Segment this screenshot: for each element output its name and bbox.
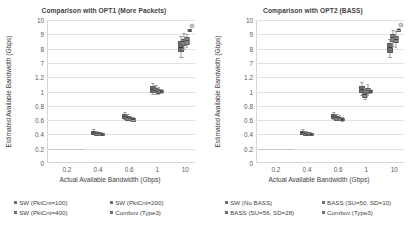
boxplot-whisker-cap	[154, 85, 157, 86]
y-axis-tick-label: 0.4	[244, 131, 253, 138]
legend-item: Combov (Type3)	[110, 209, 204, 216]
gridline	[47, 134, 195, 135]
legend-item: SW (PktCnt=100)	[14, 199, 108, 206]
gridline	[256, 34, 404, 35]
legend-label: BASS (SU=56, SD=28)	[230, 209, 294, 216]
y-axis-label-opt1: Estimated Available Bandwidth (Gbps)	[2, 20, 14, 163]
figure-two-boxplot-charts: Comparison with OPT1 (More Packets) Esti…	[0, 0, 417, 241]
y-axis-label-opt2: Estimated Available Bandwidth (Gbps)	[211, 20, 223, 163]
y-axis-tick-label: 0.6	[35, 117, 44, 124]
boxplot-whisker-cap	[366, 95, 369, 96]
boxplot-median	[388, 47, 392, 48]
y-axis-tick-label: 9	[249, 31, 253, 38]
y-axis-tick-label: 7	[40, 59, 44, 66]
boxplot-whisker-cap	[185, 47, 188, 48]
chart-panel-opt1: Comparison with OPT1 (More Packets) Esti…	[0, 0, 208, 241]
legend-swatch-icon	[225, 201, 228, 204]
gridline	[256, 120, 404, 121]
y-axis-label-text: Estimated Available Bandwidth (Gbps)	[214, 35, 221, 147]
boxplot-outlier	[398, 22, 403, 27]
boxplot-outlier	[189, 23, 194, 28]
boxplot-whisker-cap	[360, 82, 363, 83]
boxplot-whisker-cap	[179, 36, 182, 37]
y-axis-tick-label: 1	[40, 88, 44, 95]
boxplot-median	[101, 134, 104, 135]
boxplot-median	[188, 30, 191, 31]
gridline	[47, 77, 195, 78]
gridline	[47, 63, 195, 64]
x-axis-tick-label: 1	[155, 166, 159, 173]
chart-panel-opt2: Comparison with OPT2 (BASS) Estimated Av…	[209, 0, 417, 241]
plot-area-opt1: 00.20.40.60.811.2789100.20.40.6110	[47, 20, 195, 163]
legend-label: SW (PktCnt=100)	[19, 199, 67, 206]
gridline	[256, 63, 404, 64]
y-axis-tick-label: 0.8	[35, 102, 44, 109]
gridline	[256, 77, 404, 78]
legend-label: BASS (SU=50, SD=10)	[327, 199, 391, 206]
gridline	[256, 92, 404, 93]
y-axis-tick-label: 0.4	[35, 131, 44, 138]
y-axis-tick-label: 1.2	[35, 74, 44, 81]
legend-swatch-icon	[225, 211, 228, 214]
y-axis-tick-label: 0.2	[35, 145, 44, 152]
x-axis-tick-label: 1	[364, 166, 368, 173]
y-axis-tick-label: 0	[40, 160, 44, 167]
x-axis-tick-label: 0.6	[125, 166, 134, 173]
boxplot-whisker-cap	[332, 112, 335, 113]
gridline	[256, 134, 404, 135]
y-axis-tick-label: 8	[40, 45, 44, 52]
gridline	[47, 106, 195, 107]
legend-swatch-icon	[322, 211, 325, 214]
y-axis-tick-label: 0	[249, 160, 253, 167]
legend-opt2: SW (No BASS) BASS (SU=50, SD=10) BASS (S…	[225, 199, 415, 216]
y-axis-tick-label: 1	[249, 88, 253, 95]
x-axis-tick-label: 10	[182, 166, 189, 173]
boxplot-whisker-cap	[394, 47, 397, 48]
legend-item: Combov (Type3)	[322, 209, 415, 216]
gridline	[47, 34, 195, 35]
chart-title-opt1: Comparison with OPT1 (More Packets)	[0, 7, 208, 14]
legend-label: Combov (Type3)	[115, 209, 161, 216]
y-axis-tick-label: 0.2	[244, 145, 253, 152]
y-axis-tick-label: 8	[249, 45, 253, 52]
plot-series-area	[47, 20, 195, 163]
boxplot-whisker-cap	[183, 49, 186, 50]
boxplot-median	[160, 91, 163, 92]
plot-area-opt2: 00.20.40.60.811.2789100.20.40.6110	[256, 20, 404, 163]
x-axis-tick-label: 0.2	[63, 166, 72, 173]
y-axis-tick-label: 7	[249, 59, 253, 66]
y-axis-tick-label: 0.6	[244, 117, 253, 124]
y-axis-tick-label: 10	[37, 17, 44, 24]
y-axis-tick-label: 0.8	[244, 102, 253, 109]
boxplot-whisker-cap	[151, 83, 154, 84]
boxplot-median	[369, 91, 372, 92]
legend-item: SW (No BASS)	[225, 199, 320, 206]
x-axis-tick-label: 0.4	[303, 166, 312, 173]
boxplot-whisker-cap	[123, 112, 126, 113]
boxplot-whisker-cap	[363, 99, 366, 100]
boxplot-median	[185, 40, 188, 41]
legend-item: BASS (SU=56, SD=28)	[225, 209, 320, 216]
plot-series-area	[256, 20, 404, 163]
y-axis-tick-label: 9	[40, 31, 44, 38]
gridline	[47, 92, 195, 93]
boxplot-whisker-cap	[185, 34, 188, 35]
gridline	[256, 106, 404, 107]
x-axis-tick-label: 10	[391, 166, 398, 173]
reference-line	[258, 149, 294, 150]
legend-item: SW (PktCnt=200)	[110, 199, 204, 206]
legend-label: SW (No BASS)	[230, 199, 272, 206]
legend-label: SW (PktCnt=400)	[19, 209, 67, 216]
y-axis-tick-label: 1.2	[244, 74, 253, 81]
legend-item: SW (PktCnt=400)	[14, 209, 108, 216]
reference-line	[49, 149, 85, 150]
legend-item: BASS (SU=50, SD=10)	[322, 199, 415, 206]
y-axis-tick-label: 10	[246, 17, 253, 24]
boxplot-box	[184, 37, 189, 45]
legend-swatch-icon	[14, 201, 17, 204]
x-axis-label-opt1: Actual Available Bandwidth (Gbps)	[20, 176, 200, 183]
legend-swatch-icon	[322, 201, 325, 204]
x-axis-tick-label: 0.2	[272, 166, 281, 173]
boxplot-median	[310, 134, 313, 135]
gridline	[256, 20, 404, 21]
